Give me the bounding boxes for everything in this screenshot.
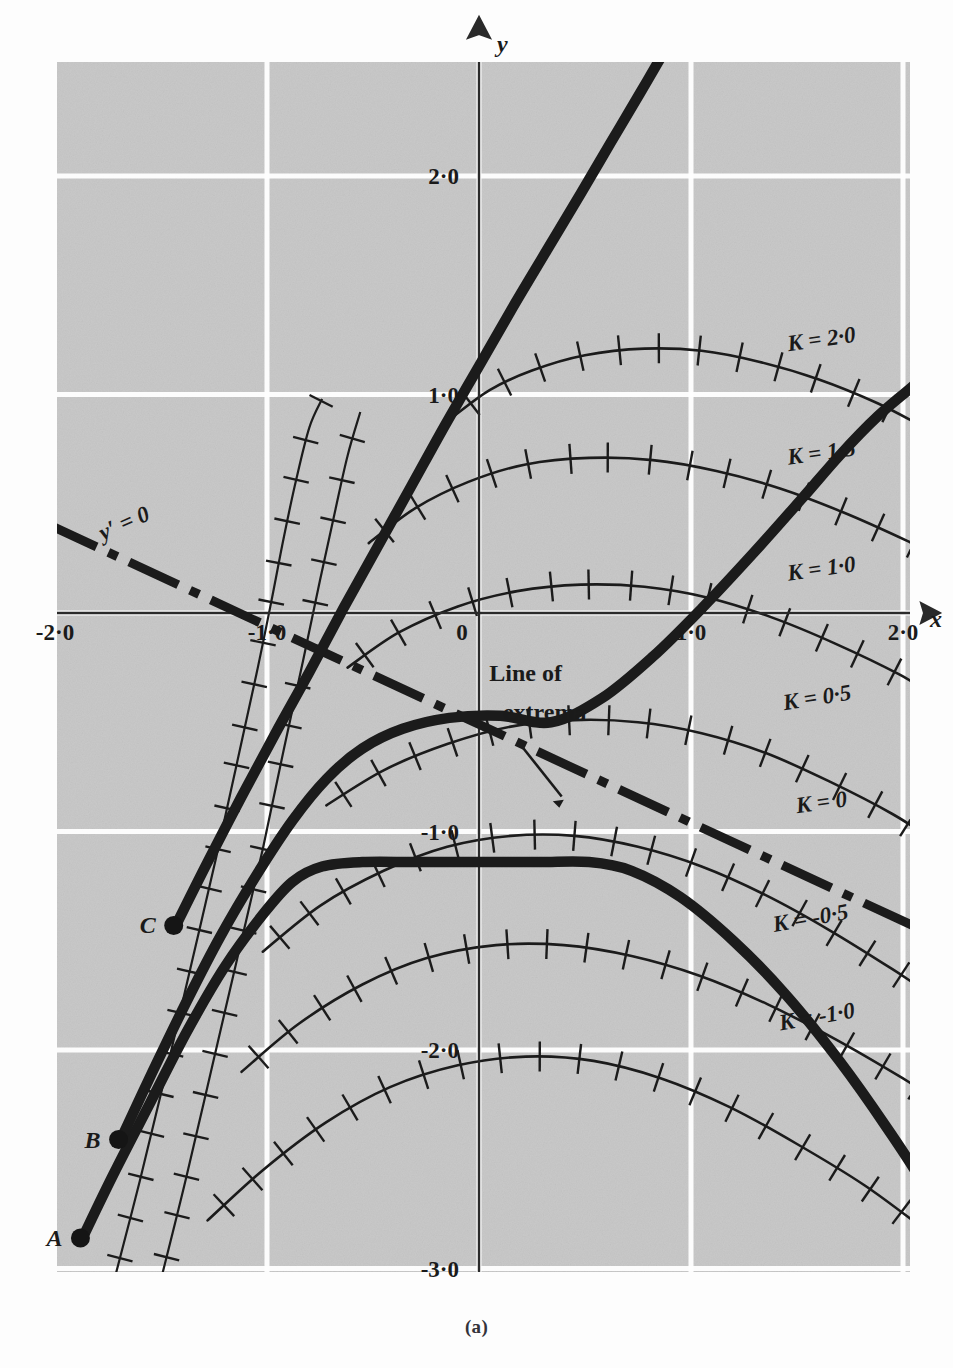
point-marker-dot	[164, 916, 183, 935]
isocline-hatch-tick	[546, 929, 547, 959]
y-axis-label: y	[494, 31, 508, 57]
isocline-hatch-tick	[608, 705, 609, 735]
y-tick-label: 1·0	[428, 383, 459, 408]
point-label: B	[84, 1127, 101, 1153]
x-tick-label: -1·0	[248, 620, 286, 645]
y-tick-label: -2·0	[421, 1038, 459, 1063]
point-marker-dot	[71, 1228, 90, 1247]
x-tick-label: 0	[456, 620, 468, 645]
panel-grain-texture	[57, 62, 910, 1272]
x-tick-label: 2·0	[888, 620, 919, 645]
plot-svg: -2·0-1·001·02·02·01·0-1·0-2·0-3·0xyK = 2…	[0, 0, 953, 1368]
x-tick-label: 1·0	[676, 620, 707, 645]
y-tick-label: 2·0	[428, 164, 459, 189]
point-label: A	[44, 1225, 62, 1251]
isocline-figure: -2·0-1·001·02·02·01·0-1·0-2·0-3·0xyK = 2…	[0, 0, 953, 1368]
y-tick-label: -3·0	[421, 1257, 459, 1282]
isocline-hatch-tick	[534, 820, 535, 850]
isocline-hatch-tick	[588, 569, 589, 599]
point-label: C	[140, 912, 157, 938]
extrema-label-line2: extrema	[503, 699, 587, 725]
x-axis-label: x	[929, 606, 942, 632]
figure-caption: (a)	[0, 1316, 953, 1338]
y-tick-label: -1·0	[421, 820, 459, 845]
x-tick-label: -2·0	[36, 620, 74, 645]
point-marker-dot	[109, 1130, 128, 1149]
extrema-label-line1: Line of	[489, 660, 563, 686]
